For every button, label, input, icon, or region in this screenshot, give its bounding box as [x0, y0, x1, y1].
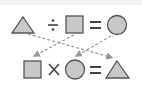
square-icon — [66, 16, 83, 33]
divide-icon — [48, 19, 58, 31]
multiply-icon — [49, 64, 59, 75]
equation-diagram — [0, 0, 142, 87]
mapping-arrows — [28, 34, 111, 57]
circle-icon — [66, 60, 85, 79]
triangle-icon — [12, 17, 34, 33]
equals-icon — [90, 22, 101, 28]
square-icon — [24, 61, 41, 78]
circle-icon — [108, 16, 127, 35]
triangle-icon — [106, 61, 129, 78]
equals-icon — [90, 67, 101, 73]
